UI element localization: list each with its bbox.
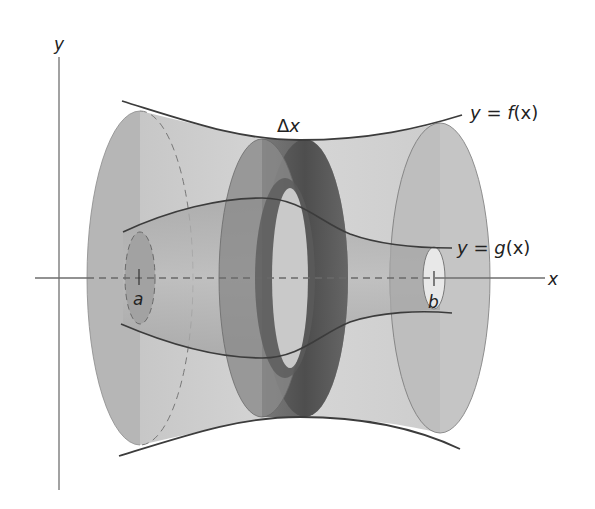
f-label-lhs: y [469,102,481,123]
washer-hole [272,188,308,368]
f-curve-label: y = f(x) [469,102,538,123]
a-label: a [133,289,143,309]
g-curve-label: y = g(x) [456,237,530,258]
y-axis: y [53,34,65,490]
g-label-eq: = [468,237,495,258]
svg-text:y = g(x): y = g(x) [456,237,530,258]
delta-symbol: Δ [277,115,290,136]
f-label-arg: (x) [514,102,539,123]
x-axis-label: x [547,269,559,289]
y-axis-label: y [53,34,65,54]
g-label-fn: g [494,237,505,258]
washer-method-diagram: y x a b [0,0,595,509]
g-label-arg: (x) [506,237,531,258]
b-label: b [428,292,439,312]
svg-text:Δx: Δx [277,115,300,136]
f-label-eq: = [481,102,508,123]
delta-var: x [288,115,300,136]
svg-text:y = f(x): y = f(x) [469,102,538,123]
delta-x-label: Δx [277,115,300,136]
g-label-lhs: y [456,237,468,258]
